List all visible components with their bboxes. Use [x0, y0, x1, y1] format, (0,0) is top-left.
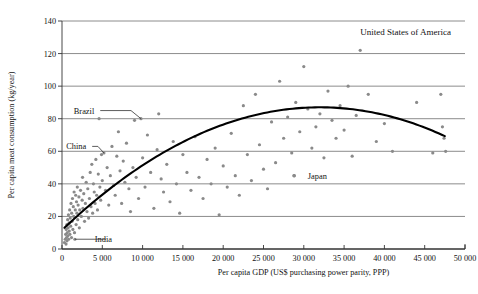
y-axis-tick-label: 40: [48, 180, 56, 189]
scatter-point: [109, 174, 112, 177]
annotation-leader-brazil: [100, 111, 141, 119]
scatter-point: [270, 120, 273, 123]
scatter-point: [125, 142, 128, 145]
scatter-point: [347, 85, 350, 88]
scatter-point: [205, 158, 208, 161]
x-axis-title: Per capita GDP (US$ purchasing power par…: [218, 268, 390, 277]
scatter-point: [226, 186, 229, 189]
scatter-point: [165, 163, 168, 166]
scatter-point: [75, 223, 78, 226]
scatter-point: [238, 194, 241, 197]
scatter-point: [74, 208, 77, 211]
scatter-point: [89, 171, 92, 174]
scatter-point: [98, 186, 101, 189]
scatter-point: [131, 166, 134, 169]
annotation-label-china: China: [66, 142, 86, 151]
scatter-point: [290, 151, 293, 154]
scatter-point: [95, 194, 98, 197]
x-axis-tick-label: 25 000: [252, 254, 275, 263]
scatter-point: [74, 194, 77, 197]
scatter-point: [83, 220, 86, 223]
scatter-point: [375, 140, 378, 143]
scatter-point: [286, 115, 289, 118]
y-axis-tick-label: 0: [52, 245, 56, 254]
scatter-point: [85, 210, 88, 213]
scatter-point: [444, 150, 447, 153]
scatter-point: [69, 225, 72, 228]
annotation-leader-china: [92, 146, 104, 153]
scatter-point: [72, 190, 75, 193]
scatter-point: [318, 112, 321, 115]
scatter-point: [442, 137, 445, 140]
scatter-point: [146, 133, 149, 136]
x-axis-tick-label: 20 000: [212, 254, 235, 263]
scatter-point: [85, 181, 88, 184]
scatter-point: [84, 202, 87, 205]
scatter-point: [157, 112, 160, 115]
scatter-point: [75, 200, 78, 203]
scatter-point: [97, 117, 100, 120]
scatter-point: [322, 156, 325, 159]
x-axis-tick-label: 40 000: [373, 254, 396, 263]
scatter-point: [120, 202, 123, 205]
scatter-point: [246, 153, 249, 156]
scatter-point: [68, 208, 71, 211]
scatter-point: [72, 205, 75, 208]
scatter-point: [135, 176, 138, 179]
x-axis-tick-label: 10 000: [131, 254, 154, 263]
scatter-point: [67, 238, 70, 241]
scatter-point: [152, 207, 155, 210]
scatter-point: [86, 187, 89, 190]
scatter-point: [107, 203, 110, 206]
meat-consumption-gdp-scatter-chart: 02040608010012014005 00010 00015 00020 0…: [0, 0, 478, 294]
scatter-point: [82, 192, 85, 195]
scatter-point: [87, 216, 90, 219]
scatter-point: [70, 212, 73, 215]
scatter-point: [69, 202, 72, 205]
scatter-point: [343, 129, 346, 132]
scatter-point: [133, 119, 136, 122]
scatter-point: [77, 195, 80, 198]
scatter-point: [210, 182, 213, 185]
x-axis-tick-label: 5 000: [93, 254, 111, 263]
scatter-point: [222, 164, 225, 167]
scatter-point: [242, 104, 245, 107]
scatter-point: [94, 158, 97, 161]
x-axis-tick-label: 0: [60, 254, 64, 263]
scatter-point: [326, 89, 329, 92]
scatter-point: [76, 218, 79, 221]
scatter-point: [81, 176, 84, 179]
scatter-point: [122, 159, 125, 162]
scatter-point: [76, 186, 79, 189]
scatter-point: [127, 187, 130, 190]
scatter-point: [101, 179, 104, 182]
scatter-point: [149, 171, 152, 174]
scatter-point: [92, 182, 95, 185]
scatter-point: [294, 101, 297, 104]
annotation-label-united-states-of-america: United States of America: [360, 27, 451, 37]
scatter-point: [274, 161, 277, 164]
x-axis-tick-label: 30 000: [293, 254, 316, 263]
scatter-point: [172, 140, 175, 143]
scatter-point: [431, 151, 434, 154]
scatter-point: [156, 148, 159, 151]
scatter-point: [160, 177, 163, 180]
scatter-point: [96, 208, 99, 211]
y-axis-tick-label: 100: [44, 82, 56, 91]
scatter-point: [234, 174, 237, 177]
scatter-point: [262, 168, 265, 171]
scatter-point: [302, 65, 305, 68]
scatter-point: [141, 156, 144, 159]
scatter-point: [439, 93, 442, 96]
x-axis-tick-label: 50 000: [454, 254, 477, 263]
scatter-point: [78, 208, 81, 211]
scatter-point: [266, 187, 269, 190]
scatter-point: [330, 119, 333, 122]
scatter-point: [254, 93, 257, 96]
scatter-point: [106, 166, 109, 169]
scatter-point: [118, 169, 121, 172]
scatter-point: [73, 231, 76, 234]
scatter-point: [137, 197, 140, 200]
scatter-point: [282, 137, 285, 140]
y-axis-tick-label: 80: [48, 115, 56, 124]
